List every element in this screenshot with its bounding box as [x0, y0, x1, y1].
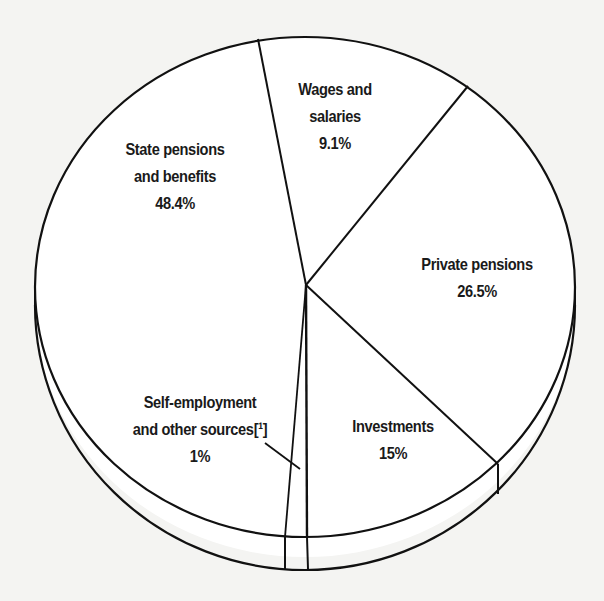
label-private-value: 26.5%: [404, 278, 550, 305]
label-private-line1: Private pensions: [404, 251, 550, 278]
divider-investments-self: [306, 285, 307, 537]
label-investments: Investments 15%: [337, 413, 449, 467]
label-self-employment: Self-employment and other sources[¹] 1%: [118, 389, 281, 470]
label-state-pensions: State pensions and benefits 48.4%: [106, 136, 244, 217]
label-self-value: 1%: [118, 443, 281, 470]
label-wages-line1: Wages and: [283, 76, 386, 103]
rim-divider-investments-self: [307, 537, 308, 569]
label-self-line1: Self-employment: [118, 389, 281, 416]
label-private-pensions: Private pensions 26.5%: [404, 251, 550, 305]
label-investments-line1: Investments: [337, 413, 449, 440]
label-self-line2: and other sources[¹]: [118, 416, 281, 443]
label-state-value: 48.4%: [106, 190, 244, 217]
label-investments-value: 15%: [337, 440, 449, 467]
label-wages-salaries: Wages and salaries 9.1%: [283, 76, 386, 157]
label-state-line1: State pensions: [106, 136, 244, 163]
label-wages-line2: salaries: [283, 103, 386, 130]
label-state-line2: and benefits: [106, 163, 244, 190]
label-wages-value: 9.1%: [283, 130, 386, 157]
